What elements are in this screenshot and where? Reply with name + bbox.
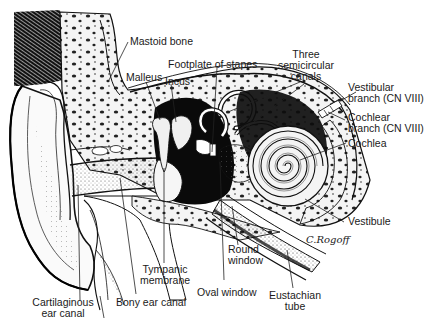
label-cartilaginous-ear-canal: Cartilaginous ear canal	[30, 297, 96, 319]
label-eustachian-tube: Eustachian tube	[267, 290, 323, 312]
label-cochlea: Cochlea	[348, 138, 387, 149]
label-incus: Incus	[165, 76, 190, 87]
label-round-window: Round window	[228, 244, 263, 266]
label-oval-window: Oval window	[197, 287, 257, 298]
scalp-hair	[14, 10, 64, 86]
cochlea	[248, 126, 328, 206]
label-mastoid-bone: Mastoid bone	[130, 36, 193, 47]
label-cochlear-branch: Cochlear branch (CN VIII)	[348, 112, 424, 134]
label-malleus: Malleus	[126, 72, 162, 83]
ear-anatomy-illustration	[0, 0, 437, 330]
label-footplate-of-stapes: Footplate of stapes	[168, 59, 257, 70]
label-three-semicircular-canals: Three semicircular canals	[276, 49, 336, 82]
label-vestibule: Vestibule	[348, 216, 391, 227]
label-vestibular-branch: Vestibular branch (CN VIII)	[348, 82, 424, 104]
label-tympanic-membrane: Tympanic membrane	[138, 264, 192, 286]
label-bony-ear-canal: Bony ear canal	[116, 297, 186, 308]
artist-signature: C.Rogoff	[306, 234, 350, 245]
leader-bony-ear-canal	[120, 178, 136, 294]
